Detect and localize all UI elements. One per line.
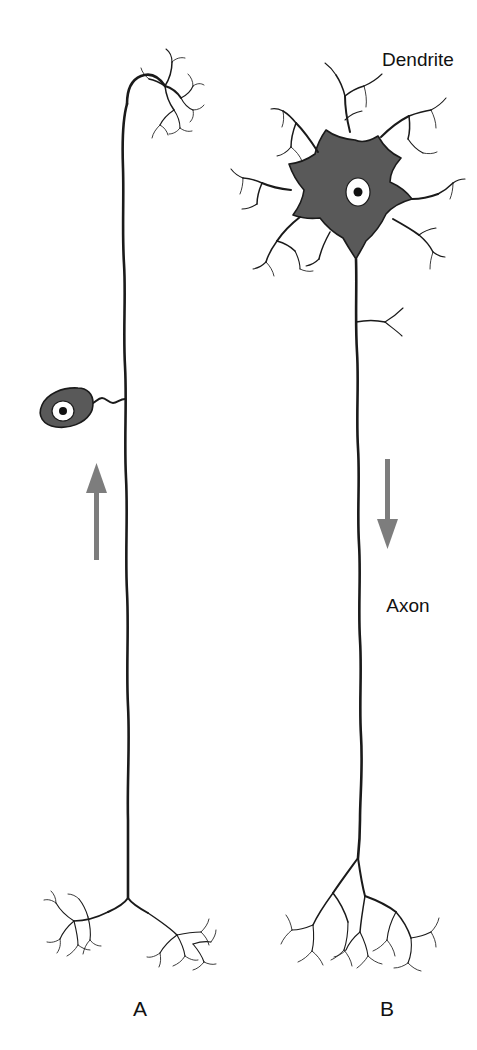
axon-label: Axon [386, 595, 429, 616]
panel-b-nucleolus [354, 188, 363, 197]
neuron-diagram-figure: A [0, 0, 477, 1050]
neuron-diagram-canvas: A [0, 0, 477, 1050]
panel-a-label: A [133, 997, 147, 1020]
figure-background [0, 0, 477, 1050]
panel-b-label: B [380, 997, 394, 1020]
dendrite-label: Dendrite [382, 49, 454, 70]
panel-a-nucleolus [59, 407, 67, 415]
